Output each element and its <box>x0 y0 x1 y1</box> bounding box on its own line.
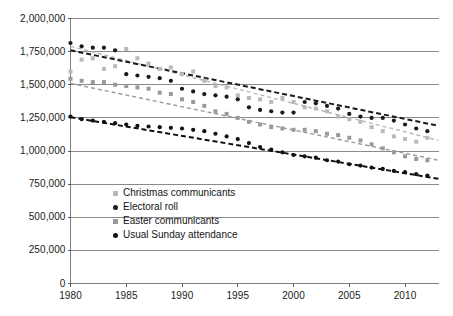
y-axis-tick-label: 1,250,000 <box>20 112 65 123</box>
y-axis-tick-label: 2,000,000 <box>20 13 65 24</box>
legend-square-marker-icon <box>113 191 118 196</box>
series-points-0 <box>69 47 430 144</box>
chart-container: 0250,000500,000750,0001,000,0001,250,000… <box>0 0 453 316</box>
chart-legend: Christmas communicantsElectoral rollEast… <box>113 186 293 242</box>
gridlines <box>71 19 439 284</box>
x-axis-tick-label: 2005 <box>329 290 369 301</box>
legend-circle-marker-icon <box>113 233 118 238</box>
legend-circle-marker-icon <box>113 205 118 210</box>
legend-item-label: Christmas communicants <box>123 186 235 200</box>
y-axis-tick-label: 0 <box>60 278 66 289</box>
y-axis-tick-label: 500,000 <box>29 211 66 222</box>
y-axis-tick-label: 1,750,000 <box>20 46 65 57</box>
series-points-3 <box>68 114 429 177</box>
legend-item[interactable]: Easter communicants <box>113 214 293 228</box>
legend-item[interactable]: Electoral roll <box>113 200 293 214</box>
y-axis-tick-label: 1,500,000 <box>20 79 65 90</box>
legend-item[interactable]: Usual Sunday attendance <box>113 228 293 242</box>
legend-item-label: Electoral roll <box>123 200 178 214</box>
series-points-2 <box>69 77 430 162</box>
y-axis-tick-label: 750,000 <box>29 178 66 189</box>
x-axis-tick-label: 1985 <box>106 290 146 301</box>
y-axis-tick-label: 1,000,000 <box>20 145 65 156</box>
legend-item-label: Easter communicants <box>123 214 219 228</box>
x-axis-tick-label: 1980 <box>51 290 91 301</box>
legend-item[interactable]: Christmas communicants <box>113 186 293 200</box>
x-axis-tick-label: 2010 <box>385 290 425 301</box>
x-axis-tick-label: 1995 <box>218 290 258 301</box>
legend-item-label: Usual Sunday attendance <box>123 228 238 242</box>
x-axis-tick-label: 2000 <box>274 290 314 301</box>
y-axis-tick-label: 250,000 <box>29 244 66 255</box>
legend-square-marker-icon <box>113 219 118 224</box>
series-points-1 <box>68 41 429 133</box>
x-axis-tick-label: 1990 <box>162 290 202 301</box>
chart-plot-area <box>0 0 453 316</box>
